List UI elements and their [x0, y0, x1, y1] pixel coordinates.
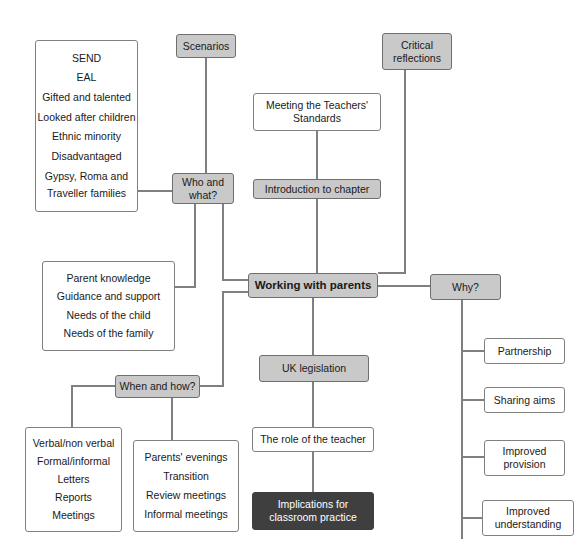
pupil-groups-line: Ethnic minority	[52, 129, 121, 144]
communication-methods-line: Letters	[57, 472, 89, 487]
parent-needs-line: Guidance and support	[57, 289, 160, 304]
pupil-groups-line: Gifted and talented	[42, 90, 131, 105]
edge-when-and-how-to-communication-methods	[72, 386, 115, 427]
node-who-and-what[interactable]: Who and what?	[172, 173, 234, 204]
pupil-groups-line: Disadvantaged	[51, 149, 121, 164]
improved-provision-label: Improved	[503, 445, 547, 458]
node-meeting-standards[interactable]: Meeting the Teachers' Standards	[253, 93, 381, 131]
communication-methods-line: Reports	[55, 490, 92, 505]
improved-provision-label: provision	[503, 458, 545, 471]
who-and-what-label: what?	[189, 189, 217, 202]
node-parent-needs[interactable]: Parent knowledge Guidance and support Ne…	[42, 261, 175, 351]
edge-critical-reflections-to-working-with-parents	[378, 70, 405, 273]
node-why[interactable]: Why?	[430, 274, 501, 300]
node-implications[interactable]: Implications for classroom practice	[252, 492, 374, 530]
node-communication-methods[interactable]: Verbal/non verbal Formal/informal Letter…	[25, 427, 122, 532]
why-label: Why?	[452, 281, 479, 294]
meeting-standards-label: Standards	[293, 112, 341, 125]
edge-who-and-what-to-parent-needs	[175, 204, 195, 287]
node-improved-understanding[interactable]: Improved understanding	[482, 500, 574, 536]
node-scenarios[interactable]: Scenarios	[176, 34, 236, 58]
critical-reflections-label: reflections	[393, 52, 441, 65]
node-uk-legislation[interactable]: UK legislation	[259, 355, 369, 382]
meeting-types-line: Informal meetings	[144, 507, 227, 522]
node-introduction-to-chapter[interactable]: Introduction to chapter	[253, 179, 381, 199]
improved-understanding-label: understanding	[495, 518, 562, 531]
meeting-types-line: Transition	[163, 469, 209, 484]
edge-who-and-what-to-working-with-parents	[223, 204, 248, 280]
flowchart-canvas: SEND EAL Gifted and talented Looked afte…	[0, 0, 588, 559]
meeting-types-line: Review meetings	[146, 488, 226, 503]
pupil-groups-line: SEND	[72, 51, 101, 66]
working-with-parents-label: Working with parents	[255, 279, 372, 292]
meeting-types-line: Parents' evenings	[144, 450, 227, 465]
node-pupil-groups[interactable]: SEND EAL Gifted and talented Looked afte…	[35, 40, 138, 212]
node-sharing-aims[interactable]: Sharing aims	[484, 387, 565, 413]
introduction-to-chapter-label: Introduction to chapter	[265, 183, 369, 196]
when-and-how-label: When and how?	[120, 380, 196, 393]
node-meeting-types[interactable]: Parents' evenings Transition Review meet…	[133, 440, 239, 532]
parent-needs-line: Needs of the family	[64, 326, 154, 341]
node-improved-provision[interactable]: Improved provision	[484, 440, 565, 476]
who-and-what-label: Who and	[182, 176, 224, 189]
role-of-teacher-label: The role of the teacher	[260, 433, 366, 446]
meeting-standards-label: Meeting the Teachers'	[266, 99, 368, 112]
implications-label: classroom practice	[269, 511, 357, 524]
parent-needs-line: Needs of the child	[66, 308, 150, 323]
edge-working-with-parents-to-when-and-how	[200, 292, 248, 386]
partnership-label: Partnership	[498, 345, 552, 358]
pupil-groups-line: Gypsy, Roma and	[45, 169, 128, 183]
pupil-groups-line: Traveller families	[47, 187, 126, 201]
scenarios-label: Scenarios	[183, 40, 230, 53]
improved-understanding-label: Improved	[506, 505, 550, 518]
communication-methods-line: Verbal/non verbal	[33, 436, 115, 451]
pupil-groups-line: Looked after children	[37, 110, 135, 125]
communication-methods-line: Meetings	[52, 508, 95, 523]
parent-needs-line: Parent knowledge	[66, 271, 150, 286]
node-when-and-how[interactable]: When and how?	[115, 375, 200, 398]
node-partnership[interactable]: Partnership	[484, 338, 565, 364]
implications-label: Implications for	[278, 498, 349, 511]
node-working-with-parents[interactable]: Working with parents	[248, 273, 378, 298]
uk-legislation-label: UK legislation	[282, 362, 346, 375]
node-critical-reflections[interactable]: Critical reflections	[382, 33, 452, 70]
communication-methods-line: Formal/informal	[37, 454, 110, 469]
node-role-of-teacher[interactable]: The role of the teacher	[252, 427, 374, 452]
critical-reflections-label: Critical	[401, 39, 433, 52]
pupil-groups-line: EAL	[77, 70, 97, 85]
sharing-aims-label: Sharing aims	[494, 394, 555, 407]
